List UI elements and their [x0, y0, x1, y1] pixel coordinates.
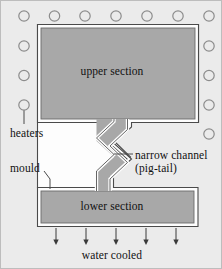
water-cooled-label: water cooled [1, 249, 222, 261]
water-cooled-arrow [83, 228, 88, 245]
heater-circle-icon [204, 129, 214, 139]
heater-circle-icon [173, 11, 183, 21]
upper-section-label: upper section [1, 65, 222, 77]
heater-circle-icon [204, 11, 214, 21]
lower-section-label: lower section [1, 200, 222, 212]
heater-circle-icon [204, 41, 214, 51]
heater-circle-icon [142, 11, 152, 21]
heater-circle-icon [19, 11, 29, 21]
heater-circle-icon [49, 11, 59, 21]
diagram-figure: upper section lower section heaters moul… [0, 0, 222, 269]
water-cooled-arrow [143, 228, 148, 245]
heater-row-top [19, 11, 214, 21]
heater-circle-icon [111, 11, 121, 21]
water-cooled-arrow-group [53, 228, 178, 245]
pig-tail-label: (pig-tail) [135, 162, 177, 174]
heater-circle-icon [80, 11, 90, 21]
mould-label: mould [10, 162, 40, 174]
heater-circle-icon [19, 41, 29, 51]
heater-circle-icon [204, 100, 214, 110]
water-cooled-arrow [53, 228, 58, 245]
heater-circle-icon [19, 100, 29, 110]
water-cooled-arrow [173, 228, 178, 245]
heater-column-right [204, 41, 214, 139]
water-cooled-arrow [113, 228, 118, 245]
narrow-channel-label: narrow channel [135, 149, 208, 161]
heaters-label: heaters [10, 127, 43, 139]
